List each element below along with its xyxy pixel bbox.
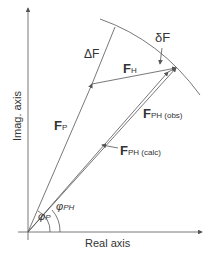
phiP-label: φP: [38, 210, 51, 222]
delta-F-label: ΔF: [84, 47, 99, 61]
vector-diagram: [0, 0, 216, 258]
FPH-calc-label: FPH (calc): [120, 143, 161, 158]
FP-label: FP: [54, 118, 67, 133]
phiPH-label: φPH: [56, 200, 74, 212]
FH-label: FH: [123, 61, 137, 76]
delta-f-label: δF: [155, 30, 170, 45]
circle-arc: [100, 19, 200, 95]
y-axis-label: Imag. axis: [11, 91, 23, 141]
FPH-obs-label: FPH (obs): [143, 106, 183, 121]
harker-diagram: ΔF δF FH FP FPH (obs) FPH (calc) φP φPH …: [0, 0, 216, 258]
x-axis-label: Real axis: [85, 237, 130, 249]
deltaF-pointer: [160, 48, 162, 64]
